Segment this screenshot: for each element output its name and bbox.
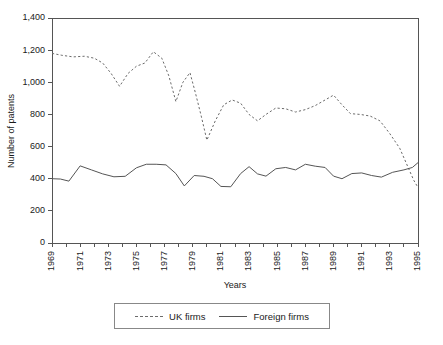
- x-tick-label: 1995: [412, 251, 422, 271]
- y-tick-label: 200: [30, 205, 45, 215]
- y-tick-label: 1,200: [22, 45, 45, 55]
- x-tick-label: 1975: [131, 251, 141, 271]
- y-tick-label: 800: [30, 109, 45, 119]
- x-tick-label: 1973: [103, 251, 113, 271]
- legend-swatch-solid-icon: [219, 316, 247, 317]
- y-axis-title: Number of patents: [6, 93, 16, 168]
- x-tick-label: 1981: [215, 251, 225, 271]
- x-tick-label: 1989: [328, 251, 338, 271]
- x-tick-label: 1971: [75, 251, 85, 271]
- x-tick-label: 1987: [300, 251, 310, 271]
- y-tick-label: 0: [40, 237, 45, 247]
- x-tick-label: 1993: [384, 251, 394, 271]
- legend-entry-uk-firms: UK firms: [135, 311, 205, 322]
- legend-label-uk-firms: UK firms: [169, 311, 205, 322]
- chart-legend: UK firms Foreign firms: [114, 303, 330, 329]
- x-tick-label: 1977: [159, 251, 169, 271]
- y-tick-label: 1,000: [22, 77, 45, 87]
- legend-entry-foreign-firms: Foreign firms: [219, 311, 308, 322]
- x-axis-title: Years: [224, 280, 247, 290]
- x-tick-label: 1979: [187, 251, 197, 271]
- chart-canvas: 02004006008001,0001,2001,400 19691971197…: [0, 0, 443, 345]
- x-tick-label: 1969: [46, 251, 56, 271]
- series-line-uk-firms: [52, 52, 418, 188]
- legend-swatch-dashed-icon: [135, 316, 163, 317]
- x-axis-ticks: 1969197119731975197719791981198319851987…: [46, 243, 422, 271]
- legend-label-foreign-firms: Foreign firms: [253, 311, 308, 322]
- x-tick-label: 1985: [272, 251, 282, 271]
- x-tick-label: 1983: [243, 251, 253, 271]
- patents-line-chart-figure: 02004006008001,0001,2001,400 19691971197…: [0, 0, 443, 345]
- y-tick-label: 400: [30, 173, 45, 183]
- series-line-foreign-firms: [52, 163, 418, 187]
- y-axis-ticks: 02004006008001,0001,2001,400: [22, 12, 52, 247]
- y-tick-label: 1,400: [22, 12, 45, 22]
- x-tick-label: 1991: [356, 251, 366, 271]
- y-tick-label: 600: [30, 141, 45, 151]
